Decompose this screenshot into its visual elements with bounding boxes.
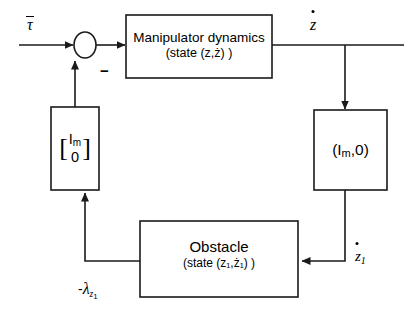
label-column-selector-row2: 0 — [69, 149, 81, 166]
bracket-close-icon: ] — [82, 137, 91, 159]
label-velocity-symbol: z — [310, 16, 316, 33]
label-sum-minus: − — [100, 62, 109, 79]
label-obstacle-line2: (state (z₁,ż₁) ) — [140, 256, 298, 270]
label-velocity: z — [310, 16, 316, 34]
label-contact-velocity-subscript: 1 — [361, 255, 366, 266]
wire-force-to-column-selector — [85, 193, 140, 261]
label-force-feedback-subscript-index: 1 — [93, 292, 97, 301]
label-row-selector-text: (Im,0) — [332, 141, 369, 159]
label-row-selector-block: (Im,0) — [314, 110, 387, 190]
summing-junction — [74, 32, 96, 58]
velocity-dot-icon — [312, 10, 315, 13]
diagram-canvas: τ − Manipulator dynamics (state (z,ż) )… — [0, 0, 404, 320]
label-manipulator-line1: Manipulator dynamics — [126, 30, 272, 46]
label-force-feedback-symbol: λ — [83, 280, 90, 297]
label-contact-velocity-symbol: z — [355, 248, 361, 264]
label-contact-velocity: z 1 — [355, 248, 366, 266]
label-obstacle-block: Obstacle (state (z₁,ż₁) ) — [140, 238, 298, 270]
label-input-torque-symbol: τ — [27, 16, 33, 33]
bracket-open-icon: [ — [59, 137, 68, 159]
label-manipulator-block: Manipulator dynamics (state (z,ż) ) — [126, 30, 272, 61]
wire-contact-velocity-to-obstacle — [302, 190, 345, 261]
label-manipulator-line2: (state (z,ż) ) — [126, 46, 272, 61]
label-column-selector-block: [ Im 0 ] — [51, 107, 99, 190]
label-column-selector-row1: Im — [69, 131, 81, 149]
label-obstacle-line1: Obstacle — [140, 238, 298, 256]
label-input-torque: τ — [26, 16, 34, 34]
label-force-feedback: -λz1 — [78, 280, 98, 301]
contact-velocity-dot-icon — [356, 242, 359, 245]
